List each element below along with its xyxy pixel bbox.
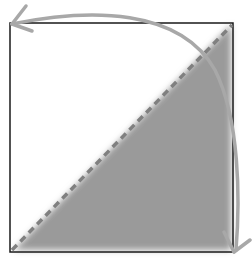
diagram-canvas — [0, 0, 252, 262]
arrowhead-top-left-icon — [12, 6, 32, 31]
